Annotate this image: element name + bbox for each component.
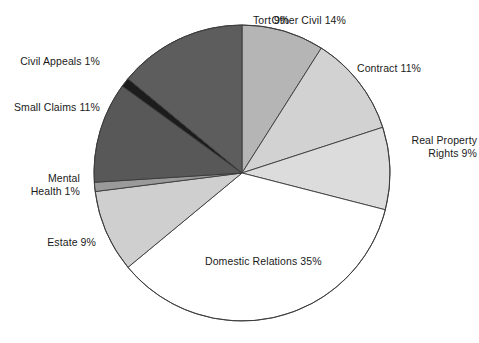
pie-slices-group [94,25,390,321]
slice-label-tort: Tort 9% [253,14,363,27]
pie-chart-figure: Other Civil 14% Tort 9% Civil Appeals 1%… [0,0,479,343]
slice-label-contract: Contract 11% [357,62,477,75]
slice-label-estate: Estate 9% [4,236,96,249]
slice-label-domestic-relations: Domestic Relations 35% [205,255,385,268]
slice-label-small-claims: Small Claims 11% [0,101,100,114]
slice-label-real-property-rights: Real Property Rights 9% [382,134,477,159]
slice-label-mental-health: Mental Health 1% [2,172,80,197]
slice-label-civil-appeals: Civil Appeals 1% [0,55,100,68]
